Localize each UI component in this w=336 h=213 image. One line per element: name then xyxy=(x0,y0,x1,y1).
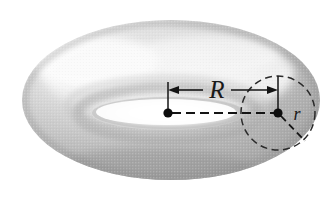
minor-radius-label: r xyxy=(293,104,301,124)
major-radius-label: R xyxy=(208,76,224,103)
torus-center-dot xyxy=(163,108,172,117)
torus-figure: R r xyxy=(0,0,336,213)
tube-center-dot xyxy=(273,108,282,117)
torus-diagram-canvas: R r xyxy=(0,0,336,213)
